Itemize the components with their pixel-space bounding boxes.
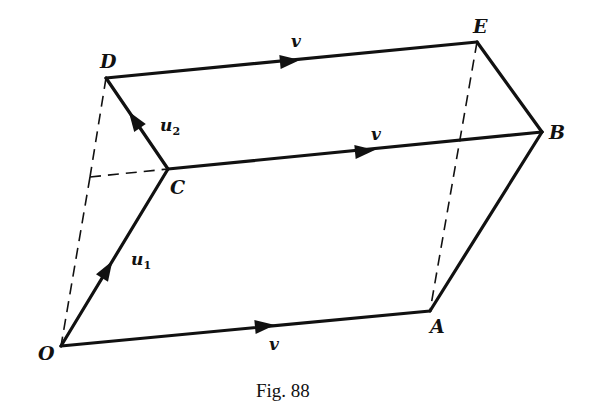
vertex-label-O: O — [38, 342, 55, 364]
u2-subscript: 2 — [172, 125, 180, 138]
vertex-label-A: A — [428, 315, 445, 337]
figure-caption: Fig. 88 — [256, 380, 310, 401]
parallelepiped-figure: O A C B D E v v v u1 u2 Fig. 88 — [0, 0, 589, 408]
hidden-edge-H-C — [90, 169, 168, 177]
edge-E-B — [477, 42, 542, 132]
edge-O-C — [61, 169, 168, 346]
arrowhead-v-OA-icon — [254, 318, 275, 334]
edge-label-v-OA: v — [269, 334, 280, 354]
u1-subscript: 1 — [143, 259, 151, 272]
edge-label-u1: u1 — [131, 249, 151, 272]
arrowhead-u1-icon — [96, 257, 118, 281]
arrowhead-v-CB-icon — [354, 143, 375, 159]
edge-label-u2: u2 — [160, 115, 180, 138]
edge-label-v-DE: v — [291, 31, 302, 51]
arrowhead-v-DE-icon — [279, 53, 300, 69]
vertex-label-C: C — [170, 176, 185, 198]
vertex-label-E: E — [472, 15, 488, 37]
u2-main: u — [160, 115, 172, 135]
u1-main: u — [131, 249, 143, 269]
edge-A-B — [430, 132, 542, 311]
edge-O-A — [61, 311, 430, 346]
edge-label-v-CB: v — [371, 124, 382, 144]
arrowhead-u2-icon — [123, 108, 146, 132]
vertex-label-D: D — [99, 50, 117, 72]
hidden-edge-D-H — [90, 78, 106, 177]
vertex-label-B: B — [548, 121, 565, 143]
